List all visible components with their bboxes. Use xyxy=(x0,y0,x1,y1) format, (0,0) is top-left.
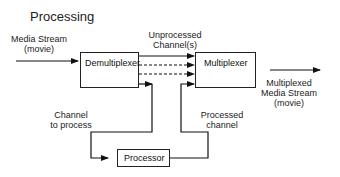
unprocessed-channels-label: Unprocessed Channel(s) xyxy=(145,30,205,50)
multiplexer-box: Multiplexer xyxy=(195,52,256,88)
processing-diagram: Processing Media Stream (movie) Unproces… xyxy=(0,0,340,177)
output-label: Multiplexed Media Stream (movie) xyxy=(253,78,325,108)
processor-box: Processor xyxy=(117,149,170,167)
channel-to-process-label: Channel to process xyxy=(46,110,96,130)
processed-channel-label: Processed channel xyxy=(196,110,248,130)
demultiplexer-box: Demultiplexer xyxy=(80,52,139,88)
input-label: Media Stream (movie) xyxy=(8,34,70,54)
